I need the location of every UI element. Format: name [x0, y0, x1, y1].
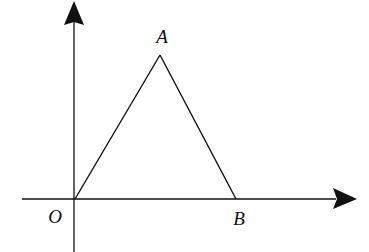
- label-B: B: [233, 208, 245, 229]
- label-O: O: [48, 206, 62, 227]
- label-A: A: [154, 26, 168, 47]
- x-axis-arrow-icon: [333, 188, 357, 209]
- segment-OA: [75, 55, 160, 199]
- y-axis-arrow-icon: [64, 1, 84, 25]
- segment-AB: [160, 55, 236, 199]
- triangle-diagram: A O B: [0, 0, 369, 252]
